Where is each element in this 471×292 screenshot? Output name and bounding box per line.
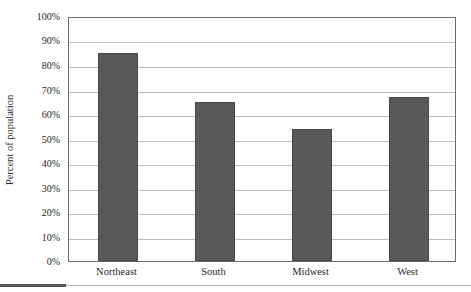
bar-west — [389, 97, 429, 261]
y-axis-tick-label: 50% — [18, 135, 60, 145]
x-axis-tick-label: South — [165, 265, 262, 278]
bar-south — [195, 102, 235, 261]
x-axis-tick-label: Northeast — [68, 265, 165, 278]
y-axis-tick-label: 0% — [18, 257, 60, 267]
y-axis-tick-label: 80% — [18, 61, 60, 71]
chart-figure: Percent of population 100%90%80%70%60%50… — [0, 0, 471, 292]
y-axis-tick-label: 40% — [18, 159, 60, 169]
y-axis-tick-label: 60% — [18, 110, 60, 120]
y-axis-tick-label: 30% — [18, 184, 60, 194]
footer-rule-dark-segment — [0, 284, 66, 287]
plot-area — [68, 17, 456, 262]
y-axis-tick-label: 20% — [18, 208, 60, 218]
y-axis-tick-label: 90% — [18, 36, 60, 46]
bar-midwest — [292, 129, 332, 261]
x-axis-tick-label: Midwest — [262, 265, 359, 278]
y-axis-title: Percent of population — [0, 17, 18, 262]
chart-title — [0, 0, 471, 2]
x-axis-tick-labels: NortheastSouthMidwestWest — [68, 265, 456, 281]
y-axis-title-text: Percent of population — [4, 94, 15, 184]
bar-northeast — [98, 53, 138, 261]
y-axis-tick-label: 10% — [18, 233, 60, 243]
y-axis-tick-label: 70% — [18, 86, 60, 96]
footer-rule — [0, 284, 471, 287]
gridline — [69, 42, 455, 43]
y-axis-tick-label: 100% — [18, 12, 60, 22]
footer-rule-light-segment — [66, 285, 471, 286]
y-axis-tick-labels: 100%90%80%70%60%50%40%30%20%10%0% — [18, 17, 64, 262]
x-axis-tick-label: West — [359, 265, 456, 278]
